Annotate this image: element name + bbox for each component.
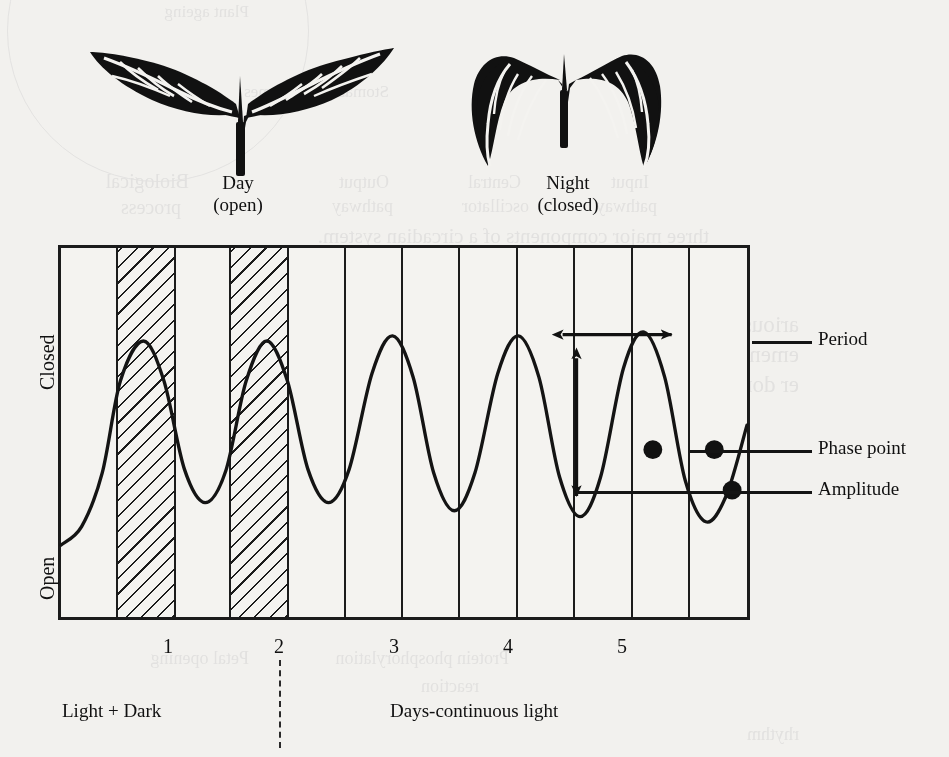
night-plant-illustration [448,18,688,178]
day-plant-illustration [60,18,420,178]
bleed-line: Protein phosphorylation [336,648,510,669]
x-tick-3: 3 [374,635,414,658]
night-plant-title: Night [478,172,658,194]
amplitude-label: Amplitude [818,478,899,500]
bleed-line: reaction [421,676,479,697]
x-tick-5: 5 [602,635,642,658]
x-tick-4: 4 [488,635,528,658]
y-axis-label-open: Open [36,557,59,600]
night-plant-state: (closed) [478,194,658,216]
day-plant-state: (open) [148,194,328,216]
phase-point-leader-line [690,450,812,453]
rhythm-chart-plot-area [58,245,750,620]
rhythm-curve-svg [61,248,747,617]
amplitude-leader-line [577,491,812,494]
rhythm-line [61,332,747,545]
bleed-line: pathway [332,196,393,217]
phase-point-label: Phase point [818,437,906,459]
period-label: Period [818,328,868,350]
y-axis-label-closed: Closed [36,334,59,390]
x-tick-1: 1 [148,635,188,658]
phase-transition-divider [279,660,281,748]
x-tick-2: 2 [259,635,299,658]
day-plant-title: Day [148,172,328,194]
night-plant-caption: Night (closed) [478,172,658,217]
period-leader-line [752,341,812,344]
light-dark-caption: Light + Dark [62,700,161,722]
continuous-light-caption: Days-continuous light [390,700,558,722]
bleed-line: rhythm [747,724,799,745]
day-plant-caption: Day (open) [148,172,328,217]
